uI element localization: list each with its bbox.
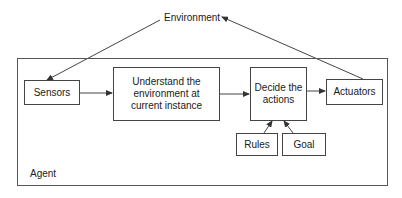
- agent-label: Agent: [30, 168, 56, 180]
- rules-label: Rules: [244, 139, 270, 151]
- understand-label: Understand the environment at current in…: [131, 76, 202, 112]
- sensors-label: Sensors: [34, 87, 71, 99]
- actuators-node: Actuators: [326, 79, 383, 105]
- goal-node: Goal: [282, 133, 326, 156]
- sensors-node: Sensors: [24, 80, 80, 105]
- rules-node: Rules: [236, 133, 278, 156]
- decide-label: Decide the actions: [255, 82, 303, 106]
- understand-node: Understand the environment at current in…: [113, 67, 220, 121]
- actuators-label: Actuators: [333, 86, 375, 98]
- decide-node: Decide the actions: [250, 67, 307, 121]
- goal-label: Goal: [293, 139, 314, 151]
- environment-label: Environment: [164, 12, 220, 24]
